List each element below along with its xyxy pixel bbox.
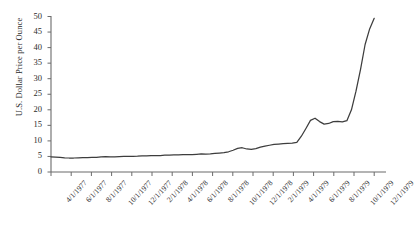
axis-lines (51, 16, 386, 172)
price-series-line (51, 18, 374, 158)
x-axis-ticks (51, 172, 374, 176)
